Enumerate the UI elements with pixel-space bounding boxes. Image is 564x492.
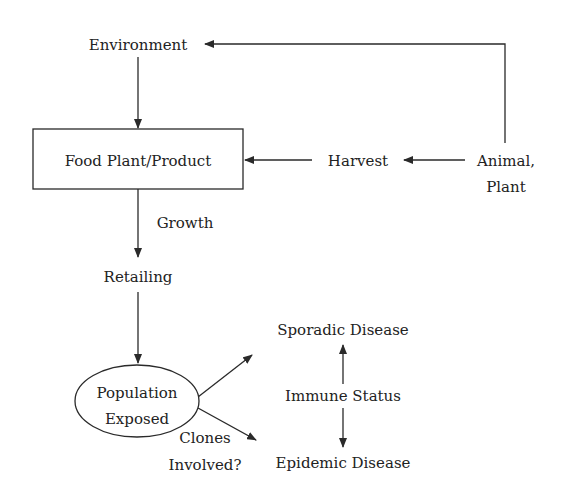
food-plant-label: Food Plant/Product: [65, 152, 212, 170]
sporadic-label: Sporadic Disease: [277, 321, 409, 339]
growth-label: Growth: [157, 214, 214, 232]
retailing-label: Retailing: [104, 268, 173, 286]
environment-label: Environment: [89, 36, 188, 54]
edge-animal-to-environment: [205, 44, 505, 143]
immune-label: Immune Status: [285, 387, 401, 405]
population-label-1: Population: [96, 384, 177, 402]
clones-label-1: Clones: [179, 429, 231, 447]
population-label-2: Exposed: [105, 410, 170, 428]
epidemic-label: Epidemic Disease: [276, 454, 411, 472]
harvest-label: Harvest: [328, 152, 388, 170]
edge-population-to-sporadic: [198, 355, 252, 397]
animal-plant-label-1: Animal,: [476, 152, 535, 170]
clones-label-2: Involved?: [169, 456, 242, 474]
flow-diagram: Environment Food Plant/Product Harvest A…: [0, 0, 564, 492]
animal-plant-label-2: Plant: [486, 178, 526, 196]
